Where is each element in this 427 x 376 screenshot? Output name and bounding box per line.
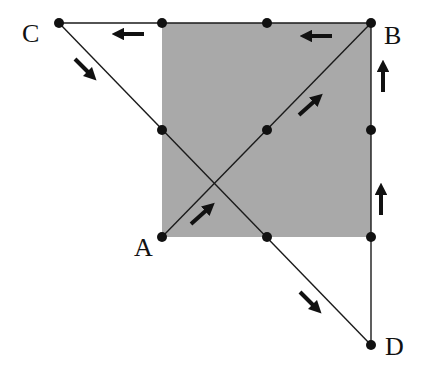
point-b: [366, 18, 376, 28]
label-c: C: [22, 19, 39, 48]
point-mid-right: [366, 125, 376, 135]
point-bottom-right: [366, 232, 376, 242]
point-mid-left: [157, 125, 167, 135]
label-d: D: [385, 332, 404, 361]
label-b: B: [384, 21, 401, 50]
point-d: [366, 340, 376, 350]
point-top-left: [157, 18, 167, 28]
arrow-down-right-icon: [75, 59, 92, 76]
point-center: [262, 125, 272, 135]
point-c: [54, 18, 64, 28]
arrow-down-right-icon: [300, 292, 317, 309]
point-a: [157, 232, 167, 242]
diagram-canvas: C B A D: [0, 0, 427, 376]
point-bottom-mid: [262, 232, 272, 242]
point-top-mid: [262, 18, 272, 28]
label-a: A: [134, 233, 153, 262]
